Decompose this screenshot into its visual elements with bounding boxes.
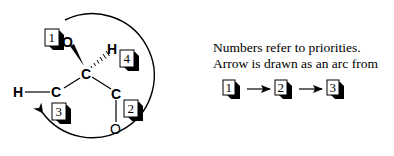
caption-line-1: Numbers refer to priorities. [213, 40, 361, 56]
priority-box-1: 1 [45, 29, 64, 50]
caption-line-2: Arrow is drawn as an arc from [213, 56, 378, 72]
bond-c-right [92, 77, 111, 89]
sequence-box-2: 2 [275, 80, 292, 99]
atom-stereocenter-c: C [81, 66, 91, 82]
svg-text:1: 1 [226, 80, 233, 95]
atom-carbonyl-o: O [110, 121, 121, 137]
svg-text:3: 3 [330, 80, 337, 95]
chirality-diagram: C O H C H C O 1 4 3 2 1 2 3 [0, 0, 394, 156]
svg-text:1: 1 [49, 30, 56, 45]
svg-text:4: 4 [124, 51, 131, 66]
atom-hydrogen-top: H [107, 41, 117, 57]
atom-left-c: C [51, 84, 61, 100]
priority-box-4: 4 [120, 50, 139, 71]
priority-box-2: 2 [124, 100, 143, 121]
svg-text:3: 3 [56, 104, 63, 119]
bond-c-left [64, 78, 80, 88]
sequence-box-3: 3 [327, 80, 344, 99]
svg-text:2: 2 [128, 101, 135, 116]
sequence-box-1: 1 [223, 80, 240, 99]
priority-box-3: 3 [52, 103, 71, 124]
atom-left-h: H [13, 84, 23, 100]
atom-right-c: C [111, 86, 121, 102]
svg-text:2: 2 [278, 80, 285, 95]
